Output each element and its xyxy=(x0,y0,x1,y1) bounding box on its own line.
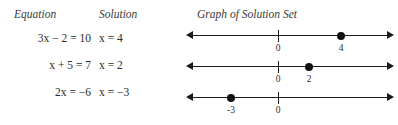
solution-point-dot xyxy=(337,32,345,40)
origin-label: 0 xyxy=(276,43,281,54)
origin-label: 0 xyxy=(276,74,281,85)
arrow-right-icon xyxy=(387,62,394,70)
column-header-equation: Equation xyxy=(14,8,56,21)
solution-point-label: 2 xyxy=(307,74,312,85)
column-header-solution: Solution xyxy=(99,8,137,21)
solution-point-dot xyxy=(227,94,235,102)
number-line: -3 0 xyxy=(186,86,394,116)
origin-tick xyxy=(278,61,279,73)
number-line: 0 4 xyxy=(186,24,394,54)
number-line: 0 2 xyxy=(186,55,394,85)
origin-label: 0 xyxy=(276,105,281,116)
arrow-left-icon xyxy=(186,93,193,101)
origin-tick xyxy=(278,92,279,104)
origin-tick xyxy=(278,30,279,42)
arrow-right-icon xyxy=(387,31,394,39)
solution-point-label: 4 xyxy=(339,43,344,54)
arrow-left-icon xyxy=(186,31,193,39)
number-line-axis xyxy=(192,35,388,36)
solution-point-label: -3 xyxy=(227,105,235,116)
equation-cell: 2x = −6 xyxy=(0,85,91,99)
equation-cell: x + 5 = 7 xyxy=(0,58,91,72)
equation-cell: 3x − 2 = 10 xyxy=(0,31,91,45)
solution-point-dot xyxy=(305,63,313,71)
solution-cell: x = 2 xyxy=(99,58,179,72)
solution-cell: x = −3 xyxy=(99,85,179,99)
column-header-graph: Graph of Solution Set xyxy=(197,8,297,21)
solution-set-table: Equation Solution Graph of Solution Set … xyxy=(0,0,398,125)
number-line-axis xyxy=(192,97,388,98)
number-line-axis xyxy=(192,66,388,67)
solution-cell: x = 4 xyxy=(99,31,179,45)
arrow-right-icon xyxy=(387,93,394,101)
arrow-left-icon xyxy=(186,62,193,70)
